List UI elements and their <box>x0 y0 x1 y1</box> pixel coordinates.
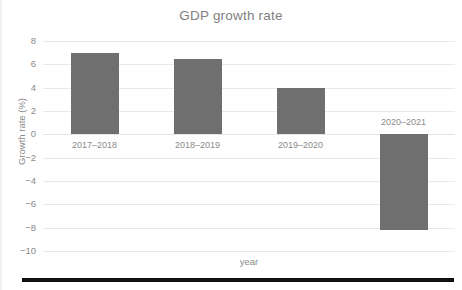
bar[interactable] <box>174 59 222 135</box>
gdp-growth-rate-chart: GDP growth rate Growth rate (%) year 864… <box>0 0 462 290</box>
bar[interactable] <box>380 134 428 230</box>
category-label: 2018–2019 <box>143 140 253 150</box>
page-edge <box>0 0 2 290</box>
y-tick-label: −8 <box>6 222 36 233</box>
category-label: 2017–2018 <box>40 140 150 150</box>
y-tick-label: −4 <box>6 175 36 186</box>
bar[interactable] <box>71 53 119 135</box>
gridline-8 <box>43 41 455 42</box>
y-tick-label: −6 <box>6 198 36 209</box>
bottom-rule <box>22 278 454 282</box>
gridline--10 <box>43 251 455 252</box>
chart-title: GDP growth rate <box>0 8 462 23</box>
y-tick-label: −10 <box>6 245 36 256</box>
y-tick-label: 4 <box>6 82 36 93</box>
category-label: 2020–2021 <box>349 117 459 127</box>
bar[interactable] <box>277 88 325 135</box>
plot-area: 2017–20182018–20192019–20202020–2021 <box>43 41 455 251</box>
category-label: 2019–2020 <box>246 140 356 150</box>
x-axis-title: year <box>43 256 455 267</box>
y-tick-label: 0 <box>6 128 36 139</box>
y-tick-label: 6 <box>6 58 36 69</box>
y-tick-label: 2 <box>6 105 36 116</box>
y-tick-label: 8 <box>6 35 36 46</box>
y-tick-label: −2 <box>6 152 36 163</box>
